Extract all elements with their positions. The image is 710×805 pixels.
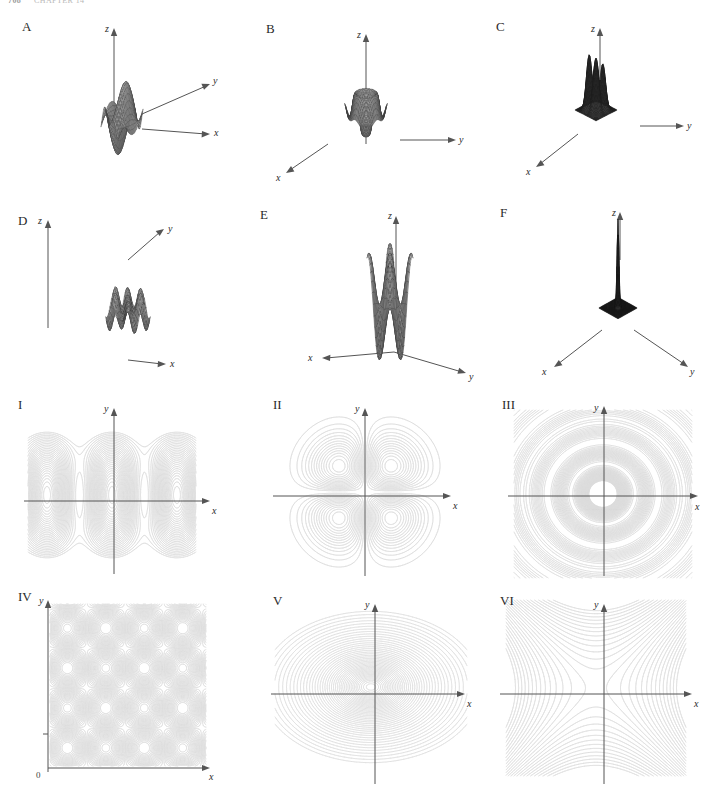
axis-label-D-x: x: [170, 359, 174, 369]
origin-label-IV: 0: [36, 770, 41, 780]
contour-plot-IV: [10, 586, 245, 786]
axis-label-E-z: z: [388, 211, 392, 221]
axis-label-D-y: y: [168, 224, 172, 234]
running-head: 708 CHAPTER 14: [0, 0, 710, 10]
panel-label-III: III: [502, 398, 515, 411]
axis-label-III-y: y: [594, 403, 598, 413]
panel-III: III y x: [492, 396, 710, 576]
panel-VI: VI y x: [492, 586, 710, 786]
axis-label-B-y: y: [459, 135, 463, 145]
axis-label-III-x: x: [695, 502, 699, 512]
panel-B: B z y x: [250, 14, 480, 194]
panel-label-A: A: [22, 20, 31, 33]
axis-label-V-y: y: [365, 600, 369, 610]
axis-label-VI-x: x: [694, 699, 698, 709]
surface-plot-D: [10, 200, 240, 386]
panel-IV: IV y x 0: [10, 586, 245, 786]
figure-page: 708 CHAPTER 14 A: [0, 0, 710, 805]
panel-II: II y x: [265, 396, 500, 576]
panel-C: C z y x: [482, 14, 710, 194]
panel-label-C: C: [496, 20, 505, 33]
surface-row-2: D z y x E: [0, 200, 710, 386]
panel-D: D z y x: [10, 200, 240, 386]
contour-row-2: IV y x 0 V: [0, 586, 710, 786]
contour-plot-I: [10, 396, 245, 576]
panel-label-II: II: [273, 398, 282, 411]
axis-label-A-x: x: [214, 128, 218, 138]
contour-plot-II: [265, 396, 500, 576]
axis-label-A-z: z: [105, 24, 109, 34]
panel-label-VI: VI: [500, 594, 514, 607]
surface-plot-A: [10, 14, 240, 194]
panel-label-B: B: [266, 22, 275, 35]
panel-label-F: F: [500, 206, 507, 219]
axis-label-E-x: x: [308, 353, 312, 363]
panel-label-V: V: [273, 594, 282, 607]
surface-row-1: A z y x B: [0, 14, 710, 194]
contour-plot-V: [265, 586, 500, 786]
page-number: 708: [8, 0, 21, 5]
axis-label-C-y: y: [687, 121, 691, 131]
panel-label-IV: IV: [18, 590, 32, 603]
chapter-title: CHAPTER 14: [34, 0, 84, 5]
panel-F: F z x y: [484, 200, 710, 386]
contour-row-1: I y x II: [0, 396, 710, 576]
axis-label-II-x: x: [453, 501, 457, 511]
axis-label-IV-x: x: [209, 772, 213, 782]
panel-label-E: E: [260, 208, 268, 221]
axis-label-F-x: x: [542, 367, 546, 377]
panel-E: E z x y: [248, 200, 482, 386]
axis-label-A-y: y: [213, 76, 217, 86]
axis-label-I-y: y: [104, 404, 108, 414]
axis-label-D-z: z: [38, 216, 42, 226]
panel-I: I y x: [10, 396, 245, 576]
axis-label-C-x: x: [526, 167, 530, 177]
panel-V: V y x: [265, 586, 500, 786]
axis-label-II-y: y: [355, 404, 359, 414]
contour-plot-III: [492, 396, 710, 576]
axis-label-B-x: x: [276, 173, 280, 183]
surface-plot-E: [248, 200, 482, 386]
axis-label-C-z: z: [591, 24, 595, 34]
axis-label-VI-y: y: [594, 600, 598, 610]
axis-label-V-x: x: [467, 699, 471, 709]
axis-label-B-z: z: [357, 30, 361, 40]
surface-plot-B: [250, 14, 480, 194]
surface-plot-F: [484, 200, 710, 386]
axis-label-F-y: y: [690, 367, 694, 377]
panel-label-D: D: [18, 214, 27, 227]
surface-plot-C: [482, 14, 710, 194]
axis-label-I-x: x: [212, 506, 216, 516]
axis-label-F-z: z: [612, 208, 616, 218]
panel-A: A z y x: [10, 14, 240, 194]
panel-label-I: I: [18, 398, 22, 411]
contour-plot-VI: [492, 586, 710, 786]
axis-label-E-y: y: [469, 372, 473, 382]
axis-label-IV-y: y: [39, 596, 43, 606]
